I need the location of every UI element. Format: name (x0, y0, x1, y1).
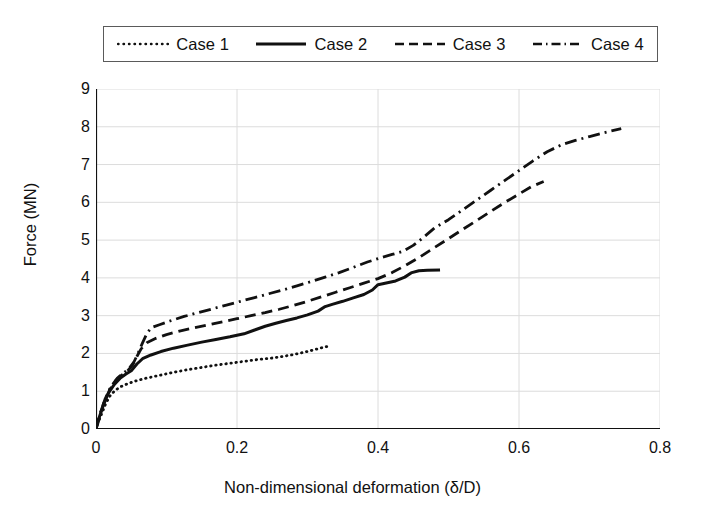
series-line-case-3 (96, 182, 544, 429)
legend-swatch-solid-icon (255, 38, 307, 50)
y-tick-label: 4 (64, 270, 90, 286)
chart-legend: Case 1 Case 2 Case 3 Case 4 (103, 26, 658, 62)
y-tick-label: 0 (64, 421, 90, 437)
data-series (96, 129, 621, 429)
legend-item-case-3: Case 3 (394, 35, 506, 54)
y-tick-label: 1 (64, 383, 90, 399)
x-tick-label: 0.8 (630, 440, 690, 456)
x-axis-tick-labels: 00.20.40.60.8 (0, 440, 705, 460)
legend-item-case-2: Case 2 (255, 35, 367, 54)
legend-label-case-4: Case 4 (591, 35, 644, 54)
y-tick-label: 2 (64, 345, 90, 361)
legend-swatch-dashed-icon (394, 38, 446, 50)
chart-container: Case 1 Case 2 Case 3 Case 4 012345 (0, 0, 705, 528)
y-tick-label: 5 (64, 232, 90, 248)
y-tick-label: 8 (64, 119, 90, 135)
legend-item-case-4: Case 4 (532, 35, 644, 54)
legend-swatch-dotted-icon (117, 38, 169, 50)
series-line-case-2 (96, 270, 440, 429)
y-axis-title: Force (MN) (21, 135, 40, 315)
legend-item-case-1: Case 1 (117, 35, 229, 54)
legend-label-case-1: Case 1 (176, 35, 229, 54)
plot-svg (96, 89, 660, 429)
y-tick-label: 9 (64, 81, 90, 97)
x-tick-label: 0.4 (348, 440, 408, 456)
y-tick-label: 6 (64, 194, 90, 210)
y-tick-label: 3 (64, 308, 90, 324)
legend-label-case-3: Case 3 (453, 35, 506, 54)
legend-label-case-2: Case 2 (314, 35, 367, 54)
legend-swatch-dashdot-icon (532, 38, 584, 50)
x-axis-title: Non-dimensional deformation (δ/D) (0, 478, 705, 497)
x-tick-label: 0 (66, 440, 126, 456)
series-line-case-1 (96, 346, 330, 429)
series-line-case-4 (96, 129, 621, 429)
x-tick-label: 0.2 (207, 440, 267, 456)
plot-area (96, 89, 660, 429)
y-tick-label: 7 (64, 157, 90, 173)
x-tick-label: 0.6 (489, 440, 549, 456)
